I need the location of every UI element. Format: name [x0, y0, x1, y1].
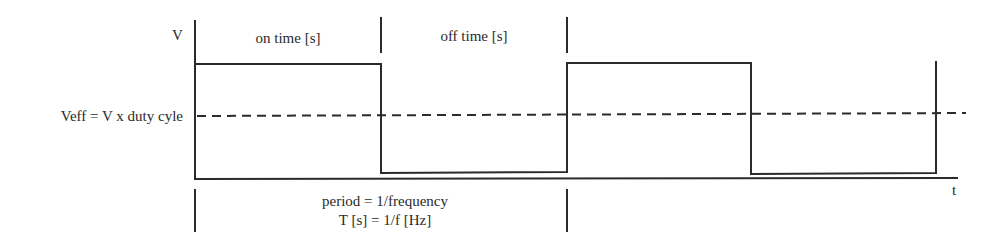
- x-axis-label: t: [952, 182, 957, 198]
- veff-dashed-line: [197, 113, 966, 116]
- period-label: period = 1/frequency: [322, 193, 448, 209]
- x-axis: [195, 178, 958, 179]
- period-formula-label: T [s] = 1/f [Hz]: [339, 212, 431, 228]
- on-time-label: on time [s]: [256, 30, 321, 46]
- y-axis-label: V: [172, 27, 183, 43]
- veff-label: Veff = V x duty cyle: [61, 108, 184, 124]
- pwm-diagram: V on time [s] off time [s] Veff = V x du…: [0, 0, 1001, 251]
- off-time-label: off time [s]: [440, 28, 507, 44]
- square-wave: [195, 61, 936, 174]
